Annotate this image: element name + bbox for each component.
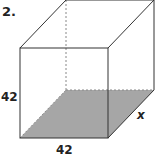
depth-label: x [136,108,146,122]
problem-number: 2. [2,4,16,19]
edge-top-right [108,0,154,48]
shaded-base [20,90,154,138]
width-label: 42 [56,143,73,157]
height-label: 42 [1,90,18,104]
rectangular-prism-diagram: 2. 42 42 x [0,0,158,162]
edge-top-left [20,0,66,48]
